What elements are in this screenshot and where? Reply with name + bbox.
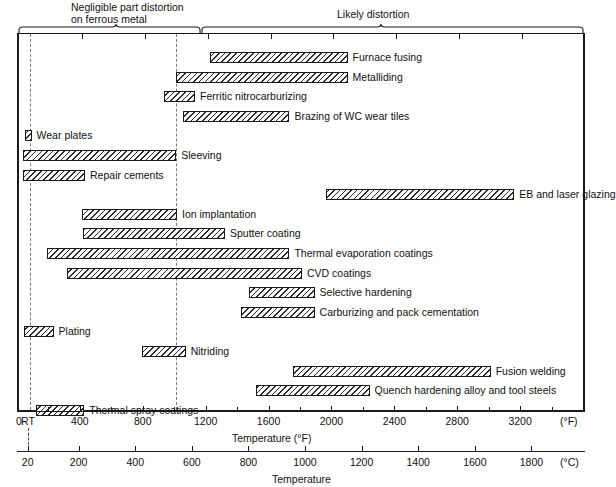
axis-fahrenheit-tick-label: 2000 [309, 415, 353, 427]
axis-fahrenheit-minor-tick [174, 407, 175, 411]
axis-celsius-tick [135, 446, 136, 451]
axis-fahrenheit-tick [269, 406, 270, 411]
bar-label: Furnace fusing [353, 50, 422, 64]
range-bar [249, 287, 315, 298]
bar-row: EB and laser glazing [19, 189, 583, 203]
axis-fahrenheit-minor-tick [300, 407, 301, 411]
axis-fahrenheit-zero-tick [17, 406, 18, 411]
bar-label: Sputter coating [230, 226, 301, 240]
axis-celsius-line [17, 451, 585, 452]
bar-row: CVD coatings [19, 268, 583, 282]
bar-label: Metalliding [353, 70, 403, 84]
bar-label: Thermal evaporation coatings [294, 246, 432, 260]
axis-fahrenheit-minor-tick [48, 407, 49, 411]
bar-label: EB and laser glazing [519, 187, 615, 201]
axis-celsius-tick-label: 1200 [340, 456, 384, 468]
axis-fahrenheit-tick-label: 2800 [435, 415, 479, 427]
axis-celsius-tick-label: 600 [170, 456, 214, 468]
bar-label: Fusion welding [496, 364, 566, 378]
axis-fahrenheit-line [17, 411, 585, 412]
range-bar [23, 170, 85, 181]
bar-label: Carburizing and pack cementation [320, 305, 479, 319]
range-bar [47, 248, 290, 259]
bar-label: Ion implantation [182, 207, 256, 221]
plot-inner: Furnace fusingMetallidingFerritic nitroc… [19, 34, 583, 410]
bar-row: Sleeving [19, 150, 583, 164]
axis-celsius-unit: (°C) [560, 456, 579, 468]
range-bar [23, 150, 176, 161]
axis-fahrenheit-tick-label: 3200 [498, 415, 542, 427]
axis-celsius-tick [192, 446, 193, 451]
bar-label: Wear plates [37, 128, 93, 142]
axis-fahrenheit-minor-tick [237, 407, 238, 411]
range-bar [293, 366, 491, 377]
bar-row: Quench hardening alloy and tool steels [19, 385, 583, 399]
axis-fahrenheit-tick [520, 406, 521, 411]
bar-row: Ion implantation [19, 209, 583, 223]
axis-celsius-tick [475, 446, 476, 451]
range-bar [25, 130, 32, 141]
bar-label: Selective hardening [320, 285, 412, 299]
axis-celsius-tick-label: 400 [113, 456, 157, 468]
top-tick [208, 34, 209, 39]
top-tick [82, 34, 83, 39]
axis-celsius-tick [362, 446, 363, 451]
axis-fahrenheit-rt-label: RT [16, 415, 40, 427]
axis-fahrenheit-tick [80, 406, 81, 411]
range-bar [241, 307, 314, 318]
bar-row: Nitriding [19, 346, 583, 360]
axis-celsius-title: Temperature [272, 473, 331, 485]
bar-row: Brazing of WC wear tiles [19, 111, 583, 125]
bar-row: Carburizing and pack cementation [19, 307, 583, 321]
bar-label: Brazing of WC wear tiles [294, 109, 409, 123]
bar-row: Selective hardening [19, 287, 583, 301]
axis-celsius-tick-label: 800 [226, 456, 270, 468]
axis-fahrenheit-tick-label: 400 [58, 415, 102, 427]
range-bar [326, 189, 514, 200]
bar-row: Sputter coating [19, 228, 583, 242]
axis-celsius-tick-label: 1400 [396, 456, 440, 468]
range-bar [67, 268, 302, 279]
bar-label: Plating [59, 324, 91, 338]
axis-celsius-tick [79, 446, 80, 451]
header-label-negligible: Negligible part distortion on ferrous me… [71, 1, 184, 25]
bar-row: Fusion welding [19, 366, 583, 380]
bar-row: Thermal evaporation coatings [19, 248, 583, 262]
axis-fahrenheit-tick [206, 406, 207, 411]
axis-fahrenheit-tick-label: 800 [121, 415, 165, 427]
bar-label: Repair cements [90, 168, 164, 182]
axis-fahrenheit-minor-tick [363, 407, 364, 411]
axis-fahrenheit-tick [394, 406, 395, 411]
axis-celsius-tick [418, 446, 419, 451]
bar-row: Repair cements [19, 170, 583, 184]
axis-fahrenheit-tick-label: 1200 [184, 415, 228, 427]
axis-fahrenheit-minor-tick [426, 407, 427, 411]
axis-celsius-tick [531, 446, 532, 451]
axis-fahrenheit-tick [143, 406, 144, 411]
axis-celsius-tick-label: 200 [57, 456, 101, 468]
bar-row: Metalliding [19, 72, 583, 86]
axis-fahrenheit-tick [457, 406, 458, 411]
axis-celsius-tick [28, 446, 29, 451]
axis-celsius-tick-label: 1600 [453, 456, 497, 468]
range-bar [256, 385, 369, 396]
range-bar [142, 346, 186, 357]
axis-celsius-tick [305, 446, 306, 451]
axis-fahrenheit-tick [331, 406, 332, 411]
axis-fahrenheit-tick-label: 2400 [372, 415, 416, 427]
range-bar [164, 91, 195, 102]
top-tick [145, 34, 146, 39]
range-bar [176, 72, 347, 83]
top-tick [522, 34, 523, 39]
axis-celsius-tick-label: 20 [6, 456, 50, 468]
axis-fahrenheit-minor-tick [552, 407, 553, 411]
bar-row: Furnace fusing [19, 52, 583, 66]
top-tick [459, 34, 460, 39]
bar-row: Ferritic nitrocarburizing [19, 91, 583, 105]
axis-celsius-tick-label: 1000 [283, 456, 327, 468]
range-bar [24, 326, 54, 337]
axis-fahrenheit-title: Temperature (°F) [232, 432, 311, 444]
bar-label: Ferritic nitrocarburizing [200, 89, 307, 103]
bar-label: Quench hardening alloy and tool steels [375, 383, 557, 397]
